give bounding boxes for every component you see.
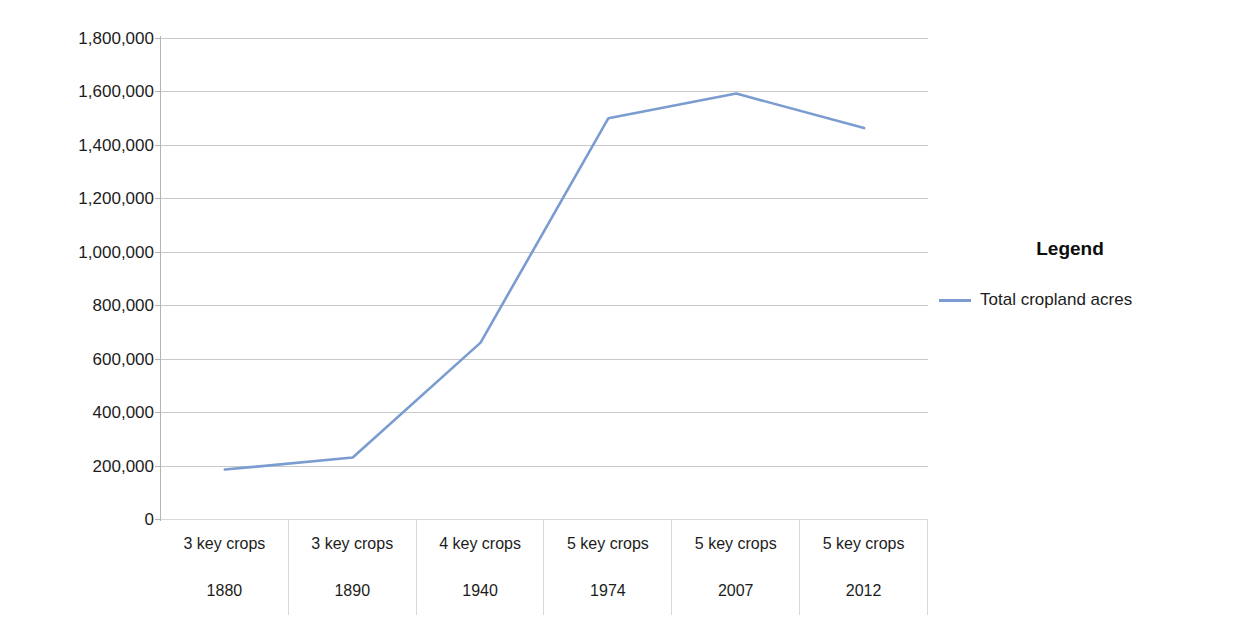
y-axis-tick-mark [155,519,161,520]
x-axis-category-year-label: 1974 [544,568,671,616]
y-axis-tick-mark [155,91,161,92]
x-axis-category-year-label: 2007 [672,568,799,616]
y-axis-tick-mark [155,38,161,39]
x-axis-category-year-label: 1940 [417,568,544,616]
y-axis-tick-label: 1,400,000 [14,137,154,154]
series-layer [161,38,928,519]
y-axis-tick-label: 0 [14,511,154,528]
y-axis-tick-mark [155,412,161,413]
y-axis-tick-label: 600,000 [14,351,154,368]
x-axis-category-table: 3 key crops18803 key crops18904 key crop… [161,519,928,615]
y-axis-tick-label: 1,600,000 [14,83,154,100]
y-axis-tick-label: 1,800,000 [14,30,154,47]
y-axis-tick-mark [155,466,161,467]
legend: Legend Total cropland acres [935,238,1235,310]
x-axis-category-column: 5 key crops2007 [672,520,800,615]
x-axis-category-crop-label: 3 key crops [289,520,416,568]
y-axis-tick-label: 1,200,000 [14,190,154,207]
x-axis-category-crop-label: 5 key crops [800,520,927,568]
y-axis-tick-mark [155,145,161,146]
y-axis-tick-label: 200,000 [14,458,154,475]
y-axis-tick-label: 1,000,000 [14,244,154,261]
y-axis-tick-mark [155,305,161,306]
legend-entries: Total cropland acres [935,290,1235,310]
x-axis-category-year-label: 1890 [289,568,416,616]
y-axis-tick-label: 400,000 [14,404,154,421]
x-axis-category-crop-label: 3 key crops [161,520,288,568]
y-axis-tick-mark [155,252,161,253]
x-axis-category-crop-label: 5 key crops [544,520,671,568]
legend-entry: Total cropland acres [935,290,1235,310]
y-axis-tick-mark [155,198,161,199]
line-chart-figure: 1,800,0001,600,0001,400,0001,200,0001,00… [0,0,1243,640]
x-axis-category-crop-label: 5 key crops [672,520,799,568]
series-line-total-cropland-acres [225,94,864,470]
y-axis-tick-mark [155,359,161,360]
legend-line-swatch-icon [939,299,971,302]
y-axis-tick-label: 800,000 [14,297,154,314]
x-axis-category-column: 3 key crops1880 [161,520,289,615]
x-axis-category-column: 3 key crops1890 [289,520,417,615]
x-axis-category-year-label: 1880 [161,568,288,616]
x-axis-category-column: 4 key crops1940 [417,520,545,615]
x-axis-category-year-label: 2012 [800,568,927,616]
x-axis-category-crop-label: 4 key crops [417,520,544,568]
x-axis-category-column: 5 key crops2012 [800,520,928,615]
legend-entry-label: Total cropland acres [980,290,1132,310]
plot-area [161,38,928,519]
x-axis-category-column: 5 key crops1974 [544,520,672,615]
legend-title: Legend [935,238,1205,260]
